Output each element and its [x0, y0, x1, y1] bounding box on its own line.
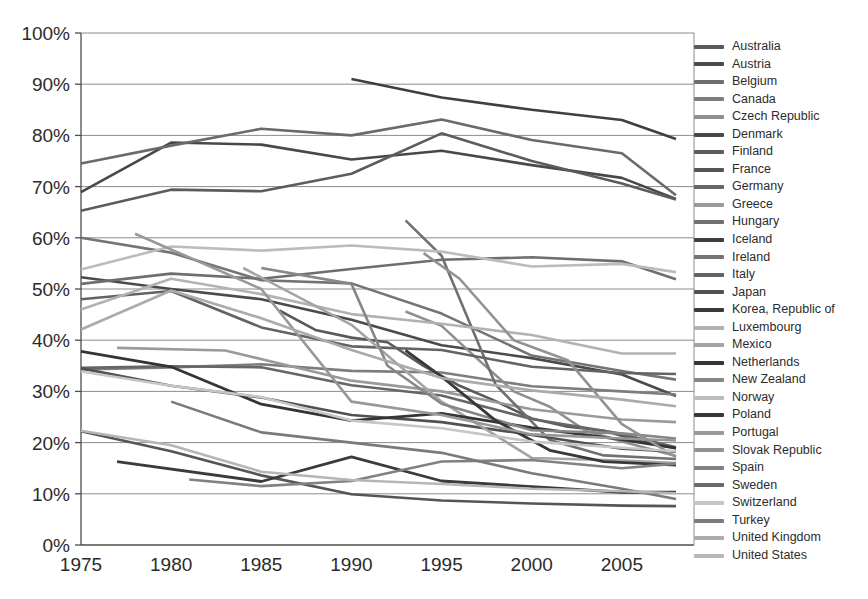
legend-item-label: Iceland — [732, 231, 772, 249]
legend-item[interactable]: Slovak Republic — [694, 442, 868, 460]
legend-item-label: Australia — [732, 38, 781, 56]
y-tick-label: 80% — [32, 125, 70, 146]
legend-item-label: United Kingdom — [732, 529, 821, 547]
y-tick-label: 90% — [32, 74, 70, 95]
legend-swatch-icon — [694, 501, 724, 505]
series-line — [424, 253, 676, 457]
legend-item[interactable]: Switzerland — [694, 494, 868, 512]
series-lines — [81, 79, 676, 506]
legend-swatch-icon — [694, 326, 724, 330]
legend-item[interactable]: United States — [694, 547, 868, 565]
legend-item[interactable]: Netherlands — [694, 354, 868, 372]
legend-item[interactable]: Japan — [694, 284, 868, 302]
legend-item-label: France — [732, 161, 771, 179]
legend-swatch-icon — [694, 185, 724, 189]
legend-item[interactable]: Australia — [694, 38, 868, 56]
legend-item[interactable]: Germany — [694, 178, 868, 196]
legend-swatch-icon — [694, 519, 724, 523]
legend-swatch-icon — [694, 220, 724, 224]
legend-swatch-icon — [694, 466, 724, 470]
legend-item[interactable]: Mexico — [694, 336, 868, 354]
legend-item-label: Mexico — [732, 336, 772, 354]
legend-item-label: Switzerland — [732, 494, 797, 512]
legend-swatch-icon — [694, 273, 724, 277]
legend-item[interactable]: Finland — [694, 143, 868, 161]
y-tick-label: 0% — [43, 535, 71, 556]
legend-item-label: Luxembourg — [732, 319, 802, 337]
legend-swatch-icon — [694, 343, 724, 347]
legend-item-label: Greece — [732, 196, 773, 214]
series-line — [117, 457, 676, 492]
series-line — [81, 291, 676, 374]
series-line — [351, 79, 676, 139]
legend-item[interactable]: Spain — [694, 459, 868, 477]
legend-item[interactable]: Austria — [694, 56, 868, 74]
legend-item[interactable]: New Zealand — [694, 371, 868, 389]
legend-swatch-icon — [694, 97, 724, 101]
y-tick-label: 60% — [32, 228, 70, 249]
legend-item[interactable]: Canada — [694, 91, 868, 109]
y-tick-label: 10% — [32, 484, 70, 505]
legend-item-label: Hungary — [732, 213, 779, 231]
legend-item[interactable]: Czech Republic — [694, 108, 868, 126]
legend-swatch-icon — [694, 361, 724, 365]
y-tick-label: 40% — [32, 330, 70, 351]
legend-swatch-icon — [694, 378, 724, 382]
legend-item-label: Ireland — [732, 249, 770, 267]
legend-item-label: Spain — [732, 459, 764, 477]
legend-item-label: Korea, Republic of — [732, 301, 835, 319]
y-tick-label: 100% — [21, 23, 70, 44]
legend-item[interactable]: Poland — [694, 406, 868, 424]
legend-item[interactable]: Korea, Republic of — [694, 301, 868, 319]
chart-legend: AustraliaAustriaBelgiumCanadaCzech Repub… — [694, 38, 868, 568]
legend-item[interactable]: Luxembourg — [694, 319, 868, 337]
x-tick-label: 1975 — [60, 554, 102, 575]
y-tick-label: 30% — [32, 381, 70, 402]
legend-swatch-icon — [694, 483, 724, 487]
legend-swatch-icon — [694, 203, 724, 207]
legend-item-label: Poland — [732, 406, 771, 424]
y-tick-label: 50% — [32, 279, 70, 300]
legend-item[interactable]: Hungary — [694, 213, 868, 231]
legend-item[interactable]: Greece — [694, 196, 868, 214]
x-tick-label: 2000 — [511, 554, 553, 575]
legend-item-label: Canada — [732, 91, 776, 109]
legend-item[interactable]: Turkey — [694, 512, 868, 530]
legend-item[interactable]: United Kingdom — [694, 529, 868, 547]
legend-swatch-icon — [694, 308, 724, 312]
series-line — [81, 277, 676, 396]
legend-item[interactable]: Denmark — [694, 126, 868, 144]
legend-swatch-icon — [694, 396, 724, 400]
legend-item[interactable]: Italy — [694, 266, 868, 284]
legend-item-label: Sweden — [732, 477, 777, 495]
legend-swatch-icon — [694, 255, 724, 259]
legend-item[interactable]: Belgium — [694, 73, 868, 91]
legend-item-label: Portugal — [732, 424, 779, 442]
legend-item[interactable]: Norway — [694, 389, 868, 407]
line-chart: 0%10%20%30%40%50%60%70%80%90%100% 197519… — [0, 0, 706, 580]
legend-item[interactable]: Ireland — [694, 249, 868, 267]
legend-item[interactable]: Iceland — [694, 231, 868, 249]
legend-item-label: Czech Republic — [732, 108, 820, 126]
legend-swatch-icon — [694, 431, 724, 435]
legend-item-label: Austria — [732, 56, 771, 74]
legend-swatch-icon — [694, 150, 724, 154]
y-tick-label: 70% — [32, 177, 70, 198]
legend-swatch-icon — [694, 168, 724, 172]
legend-item-label: Turkey — [732, 512, 770, 530]
legend-swatch-icon — [694, 290, 724, 294]
x-tick-label: 1990 — [330, 554, 372, 575]
legend-item[interactable]: Portugal — [694, 424, 868, 442]
y-axis-tick-labels: 0%10%20%30%40%50%60%70%80%90%100% — [21, 23, 70, 556]
legend-item-label: Norway — [732, 389, 774, 407]
x-axis-tick-labels: 1975198019851990199520002005 — [60, 554, 643, 575]
legend-item-label: New Zealand — [732, 371, 806, 389]
legend-swatch-icon — [694, 45, 724, 49]
legend-item-label: United States — [732, 547, 807, 565]
legend-item[interactable]: Sweden — [694, 477, 868, 495]
legend-swatch-icon — [694, 238, 724, 242]
y-tick-label: 20% — [32, 433, 70, 454]
x-tick-label: 1995 — [420, 554, 462, 575]
legend-item-label: Belgium — [732, 73, 777, 91]
legend-item[interactable]: France — [694, 161, 868, 179]
